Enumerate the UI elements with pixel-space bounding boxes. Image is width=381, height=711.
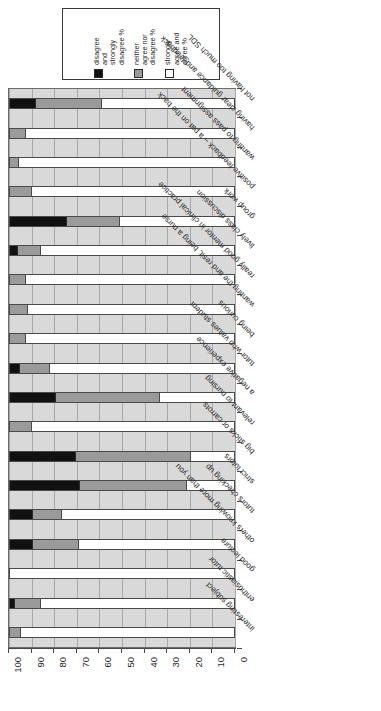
segment-neither: [10, 129, 26, 138]
value-tick-label: 80: [57, 657, 68, 668]
bar-row: [9, 207, 235, 236]
stacked-bar[interactable]: [9, 216, 235, 227]
category-tick: [237, 412, 242, 413]
category-tick: [237, 648, 242, 649]
bar-row: [9, 177, 235, 206]
stacked-bar[interactable]: [9, 392, 235, 403]
segment-agree: [26, 275, 234, 284]
value-tick-label: 0: [238, 657, 249, 662]
segment-agree: [26, 334, 234, 343]
category-tick: [237, 324, 242, 325]
legend-label: strongly agree and agree %: [164, 33, 189, 65]
value-tick: [121, 649, 122, 653]
segment-disagree: [10, 364, 19, 373]
segment-agree: [41, 246, 234, 255]
stacked-bar[interactable]: [9, 451, 235, 462]
bar-rows: [9, 89, 235, 647]
segment-neither: [32, 540, 79, 549]
segment-neither: [32, 510, 61, 519]
value-tick-label: 20: [193, 657, 204, 668]
category-tick: [237, 560, 242, 561]
value-tick: [53, 649, 54, 653]
segment-agree: [21, 628, 234, 637]
legend-label: disagree and strongly disagree %: [93, 29, 126, 65]
bar-row: [9, 530, 235, 559]
bar-row: [9, 148, 235, 177]
segment-neither: [75, 452, 191, 461]
segment-agree: [28, 305, 234, 314]
bar-row: [9, 471, 235, 500]
bar-row: [9, 295, 235, 324]
category-tick: [237, 176, 242, 177]
bar-row: [9, 324, 235, 353]
bar-row: [9, 442, 235, 471]
stacked-bar[interactable]: [9, 128, 235, 139]
category-tick: [237, 442, 242, 443]
chart-page: disagree and strongly disagree %neither …: [0, 0, 381, 711]
category-tick: [237, 619, 242, 620]
bar-row: [9, 588, 235, 617]
value-axis: 1009080706050403020100: [8, 648, 236, 652]
stacked-bar[interactable]: [9, 568, 235, 579]
category-tick: [237, 265, 242, 266]
segment-neither: [10, 275, 26, 284]
stacked-bar[interactable]: [9, 363, 235, 374]
value-tick-label: 40: [148, 657, 159, 668]
segment-agree: [191, 452, 234, 461]
segment-agree: [50, 364, 234, 373]
stacked-bar[interactable]: [9, 98, 235, 109]
segment-agree: [41, 599, 234, 608]
segment-agree: [187, 481, 234, 490]
gridline: [235, 89, 236, 647]
stacked-bar[interactable]: [9, 304, 235, 315]
stacked-bar[interactable]: [9, 539, 235, 550]
segment-neither: [10, 305, 28, 314]
segment-disagree: [10, 217, 66, 226]
stacked-bar[interactable]: [9, 627, 235, 638]
category-tick: [237, 383, 242, 384]
segment-neither: [66, 217, 120, 226]
bar-row: [9, 383, 235, 412]
value-tick: [189, 649, 190, 653]
category-tick: [237, 294, 242, 295]
stacked-bar[interactable]: [9, 598, 235, 609]
legend-item-negative: disagree and strongly disagree %: [93, 10, 126, 78]
stacked-bar[interactable]: [9, 186, 235, 197]
stacked-bar[interactable]: [9, 421, 235, 432]
value-tick: [211, 649, 212, 653]
segment-agree: [120, 217, 234, 226]
stacked-bar[interactable]: [9, 245, 235, 256]
value-tick-label: 60: [102, 657, 113, 668]
value-tick: [234, 649, 235, 653]
segment-neither: [10, 334, 26, 343]
value-tick-label: 30: [170, 657, 181, 668]
segment-neither: [19, 364, 50, 373]
stacked-bar[interactable]: [9, 157, 235, 168]
segment-neither: [14, 599, 41, 608]
stacked-bar[interactable]: [9, 509, 235, 520]
value-tick-label: 50: [125, 657, 136, 668]
category-tick: [237, 471, 242, 472]
category-tick: [237, 353, 242, 354]
bar-row: [9, 265, 235, 294]
segment-disagree: [10, 99, 35, 108]
bar-row: [9, 353, 235, 382]
chart-legend: disagree and strongly disagree %neither …: [62, 8, 220, 80]
value-tick-label: 70: [80, 657, 91, 668]
bar-row: [9, 412, 235, 441]
stacked-bar[interactable]: [9, 274, 235, 285]
segment-disagree: [10, 540, 32, 549]
bar-row: [9, 118, 235, 147]
value-tick: [98, 649, 99, 653]
category-tick: [237, 589, 242, 590]
stacked-bar[interactable]: [9, 480, 235, 491]
category-tick: [237, 501, 242, 502]
segment-neither: [35, 99, 102, 108]
value-tick: [144, 649, 145, 653]
segment-agree: [19, 158, 234, 167]
bar-row: [9, 618, 235, 647]
stacked-bar[interactable]: [9, 333, 235, 344]
segment-agree: [160, 393, 234, 402]
legend-swatch-positive-icon: [165, 69, 174, 78]
segment-neither: [55, 393, 160, 402]
